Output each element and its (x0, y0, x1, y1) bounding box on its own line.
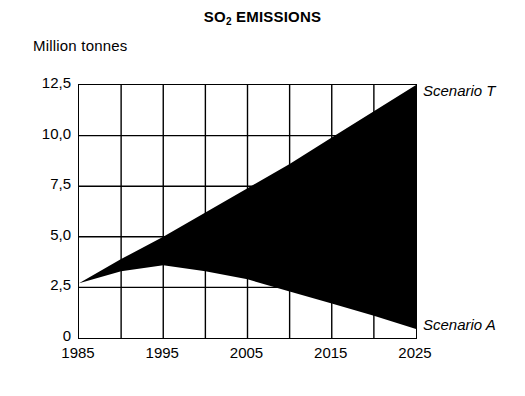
title-subscript: 2 (226, 16, 232, 27)
chart-page: SO2 EMISSIONS Million tonnes 02,55,07,51… (0, 0, 525, 396)
title-main: SO (204, 8, 226, 25)
page-title: SO2 EMISSIONS (0, 8, 525, 25)
y-tick-label: 0 (0, 327, 71, 344)
plot-area (78, 84, 417, 339)
x-tick-label: 2005 (230, 344, 263, 361)
x-tick-label: 1985 (61, 344, 94, 361)
y-tick-label: 5,0 (0, 226, 71, 243)
x-tick-label: 2025 (398, 344, 431, 361)
scan-artifact (138, 226, 142, 230)
x-tick-label: 1995 (146, 344, 179, 361)
chart-svg (79, 85, 416, 338)
y-axis-label: Million tonnes (33, 37, 128, 54)
title-rest: EMISSIONS (232, 8, 322, 25)
y-tick-label: 10,0 (0, 125, 71, 142)
y-tick-label: 12,5 (0, 74, 71, 91)
y-tick-label: 2,5 (0, 276, 71, 293)
x-tick-label: 2015 (314, 344, 347, 361)
annotation-scenario-t: Scenario T (423, 82, 496, 99)
annotation-scenario-a: Scenario A (423, 316, 496, 333)
y-tick-label: 7,5 (0, 175, 71, 192)
